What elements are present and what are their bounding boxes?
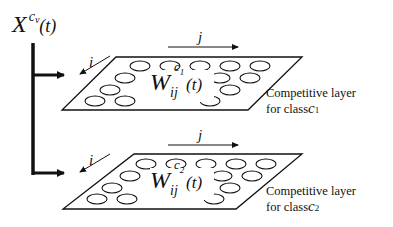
j-axis-label: j (198, 128, 202, 143)
input-vector-label: Xcv(t) (12, 12, 56, 36)
j-axis-label: j (198, 30, 202, 45)
input-superscript: cv (29, 9, 40, 24)
weight-label: W c2 ij (t) (150, 168, 214, 200)
i-direction-arrow (80, 154, 110, 172)
input-argument: (t) (39, 16, 56, 36)
input-symbol: X (12, 11, 27, 37)
layer-caption: Competitive layer for classc2 (266, 184, 356, 216)
layer-caption: Competitive layer for classc1 (266, 86, 356, 118)
i-axis-label: i (89, 55, 93, 70)
input-connector (33, 43, 64, 175)
weight-label: W c1 ij (t) (150, 70, 214, 102)
i-axis-label: i (89, 153, 93, 168)
